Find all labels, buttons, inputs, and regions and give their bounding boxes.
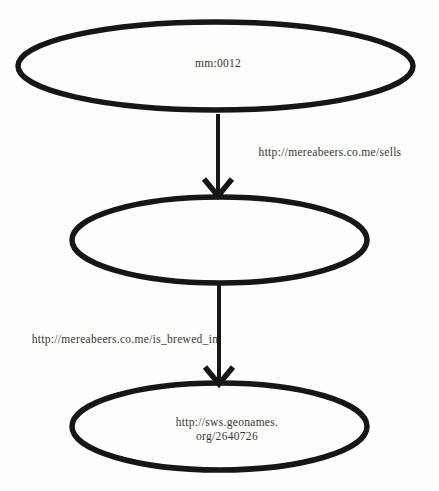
edge-sells-label: http://mereabeers.co.me/sells	[259, 146, 402, 159]
diagram-canvas: mm:0012 http://mereabeers.co.me/sells ht…	[0, 0, 439, 491]
node-label-bottom-line2: org/2640726	[196, 430, 258, 443]
edge-is-brewed-in-label: http://mereabeers.co.me/is_brewed_in	[32, 333, 218, 346]
rdf-graph-svg: mm:0012 http://mereabeers.co.me/sells ht…	[0, 0, 439, 491]
node-label-bottom-line1: http://sws.geonames.	[176, 416, 278, 429]
node-ellipse-middle	[72, 197, 367, 283]
node-label-top: mm:0012	[195, 57, 241, 69]
